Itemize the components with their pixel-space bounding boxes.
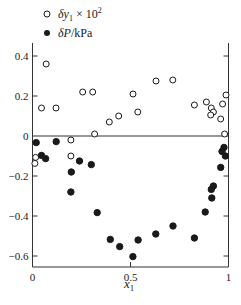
open-circle-legend-icon xyxy=(44,11,50,17)
y-tick-label: 0 xyxy=(23,130,29,142)
x-tick-label: 0 xyxy=(30,271,36,283)
y-tick-label: −0.6 xyxy=(9,250,29,262)
open-data-point xyxy=(39,105,45,111)
filled-data-point xyxy=(76,158,82,164)
open-data-point xyxy=(153,78,159,84)
y-tick-label: −0.4 xyxy=(9,210,29,222)
open-data-point xyxy=(223,92,229,98)
x-tick-label: 1 xyxy=(226,271,232,283)
y-tick-label: 0.2 xyxy=(15,90,29,102)
open-data-point xyxy=(80,89,86,95)
x-ticks: 00.51 xyxy=(30,262,232,283)
open-data-point xyxy=(222,131,228,137)
open-data-point xyxy=(170,77,176,83)
legend-open-label: δy1 × 102 xyxy=(58,6,102,23)
open-data-point xyxy=(203,99,209,105)
filled-data-point xyxy=(218,164,224,170)
open-data-point xyxy=(218,116,224,122)
y-tick-label: 0.4 xyxy=(15,50,29,62)
open-data-point xyxy=(92,131,98,137)
scatter-chart: δy1 × 102 δP/kPa 0.40.20−0.2−0.4−0.6 00.… xyxy=(0,0,241,305)
axes-frame xyxy=(33,43,229,267)
data-points xyxy=(32,61,229,260)
open-data-point xyxy=(106,119,112,125)
filled-data-point xyxy=(42,155,48,161)
legend: δy1 × 102 δP/kPa xyxy=(44,6,102,40)
filled-data-point xyxy=(135,237,141,243)
open-data-point xyxy=(191,102,197,108)
filled-data-point xyxy=(210,183,216,189)
filled-data-point xyxy=(107,236,113,242)
filled-data-point xyxy=(153,231,159,237)
open-data-point xyxy=(135,109,141,115)
filled-data-point xyxy=(202,209,208,215)
open-data-point xyxy=(33,154,39,160)
open-data-point xyxy=(43,61,49,67)
filled-circle-legend-icon xyxy=(44,30,50,36)
filled-data-point xyxy=(68,169,74,175)
open-data-point xyxy=(220,101,226,107)
open-data-point xyxy=(68,153,74,159)
filled-data-point xyxy=(130,253,136,259)
filled-data-point xyxy=(209,195,215,201)
filled-data-point xyxy=(191,235,197,241)
filled-data-point xyxy=(68,189,74,195)
filled-data-point xyxy=(88,161,94,167)
open-data-point xyxy=(116,113,122,119)
y-tick-label: −0.2 xyxy=(9,170,29,182)
filled-data-point xyxy=(170,223,176,229)
open-data-point xyxy=(130,91,136,97)
open-data-point xyxy=(53,105,59,111)
filled-data-point xyxy=(94,209,100,215)
filled-data-point xyxy=(53,138,59,144)
legend-filled-label: δP/kPa xyxy=(58,26,93,40)
open-data-point xyxy=(90,89,96,95)
filled-data-point xyxy=(33,139,39,145)
open-data-point xyxy=(32,160,38,166)
filled-data-point xyxy=(222,153,228,159)
open-data-point xyxy=(208,112,214,118)
open-data-point xyxy=(68,137,74,143)
filled-data-point xyxy=(117,243,123,249)
